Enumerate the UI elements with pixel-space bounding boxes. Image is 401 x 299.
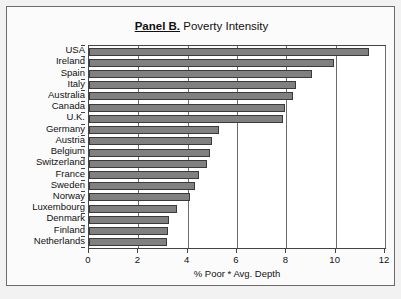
- y-axis-tick: [81, 168, 85, 169]
- y-axis-tick: [81, 146, 85, 147]
- bar: [89, 171, 199, 179]
- bar: [89, 227, 168, 235]
- bar: [89, 59, 334, 67]
- y-axis-tick: [81, 124, 85, 125]
- bar-row: [89, 147, 385, 158]
- y-axis-tick-label: France: [9, 169, 85, 179]
- x-axis-tick: [236, 249, 237, 253]
- bar: [89, 126, 219, 134]
- y-axis: USAIrelandSpainItalyAustraliaCanadaU.K.G…: [7, 45, 85, 249]
- bar: [89, 238, 167, 246]
- y-axis-tick-label: Finland: [9, 225, 85, 235]
- x-axis-tick: [187, 249, 188, 253]
- x-axis-tick-label: 12: [379, 254, 390, 265]
- y-axis-tick-label: Germany: [9, 124, 85, 134]
- bar: [89, 48, 369, 56]
- y-axis-tick-label: Norway: [9, 191, 85, 201]
- bar: [89, 104, 285, 112]
- bar-row: [89, 181, 385, 192]
- y-axis-tick: [81, 90, 85, 91]
- y-axis-tick: [81, 79, 85, 80]
- bar: [89, 193, 190, 201]
- y-axis-tick: [81, 213, 85, 214]
- bar-row: [89, 80, 385, 91]
- x-axis-tick-label: 8: [283, 254, 288, 265]
- x-axis-tick-label: 6: [233, 254, 238, 265]
- bar-row: [89, 113, 385, 124]
- y-axis-tick-label: Belgium: [9, 146, 85, 156]
- y-axis-tick-label: Sweden: [9, 180, 85, 190]
- chart-figure: Panel B. Poverty Intensity USAIrelandSpa…: [0, 0, 401, 299]
- y-axis-tick-label: Ireland: [9, 56, 85, 66]
- x-axis-tick-label: 0: [85, 254, 90, 265]
- bar-row: [89, 125, 385, 136]
- y-axis-tick: [81, 101, 85, 102]
- bar-row: [89, 46, 385, 57]
- bar-row: [89, 214, 385, 225]
- y-axis-tick: [81, 191, 85, 192]
- y-axis-tick-label: Canada: [9, 101, 85, 111]
- y-axis-tick-label: Spain: [9, 68, 85, 78]
- bar-row: [89, 102, 385, 113]
- bar-row: [89, 136, 385, 147]
- y-axis-tick-label: Switzerland: [9, 157, 85, 167]
- y-axis-tick: [81, 247, 85, 248]
- title-text: Poverty Intensity: [183, 20, 268, 32]
- x-axis-tick: [88, 249, 89, 253]
- x-axis-tick: [137, 249, 138, 253]
- bar-row: [89, 68, 385, 79]
- bar-row: [89, 57, 385, 68]
- y-axis-tick-label: USA: [9, 45, 85, 55]
- bar: [89, 137, 212, 145]
- x-axis: % Poor * Avg. Depth 024681012: [88, 249, 386, 289]
- y-axis-tick: [81, 157, 85, 158]
- y-axis-tick: [81, 45, 85, 46]
- y-axis-tick-label: Denmark: [9, 213, 85, 223]
- bar-row: [89, 91, 385, 102]
- bar: [89, 182, 195, 190]
- bar-row: [89, 158, 385, 169]
- chart-title: Panel B. Poverty Intensity: [7, 20, 396, 32]
- y-axis-tick: [81, 67, 85, 68]
- y-axis-tick: [81, 236, 85, 237]
- bar: [89, 160, 207, 168]
- bar: [89, 115, 283, 123]
- y-axis-tick-label: Luxembourg: [9, 202, 85, 212]
- plot-area: [88, 45, 386, 249]
- gridline: [385, 46, 386, 248]
- bar: [89, 70, 312, 78]
- x-axis-tick-label: 10: [329, 254, 340, 265]
- bar-row: [89, 203, 385, 214]
- y-axis-tick: [81, 56, 85, 57]
- bar-row: [89, 237, 385, 248]
- bar-row: [89, 169, 385, 180]
- x-axis-tick: [384, 249, 385, 253]
- bar: [89, 216, 169, 224]
- bar-row: [89, 192, 385, 203]
- y-axis-tick: [81, 202, 85, 203]
- panel-label: Panel B.: [135, 20, 180, 32]
- y-axis-tick-label: Australia: [9, 90, 85, 100]
- y-axis-tick: [81, 112, 85, 113]
- bar: [89, 81, 296, 89]
- x-axis-tick: [335, 249, 336, 253]
- y-axis-tick: [81, 135, 85, 136]
- y-axis-tick: [81, 180, 85, 181]
- bar-row: [89, 226, 385, 237]
- bar: [89, 149, 210, 157]
- y-axis-tick-label: U.K.: [9, 112, 85, 122]
- y-axis-tick: [81, 225, 85, 226]
- x-axis-tick: [285, 249, 286, 253]
- bar: [89, 92, 293, 100]
- figure-frame: Panel B. Poverty Intensity USAIrelandSpa…: [6, 6, 395, 286]
- bar: [89, 205, 177, 213]
- x-axis-tick-label: 2: [135, 254, 140, 265]
- y-axis-tick-label: Austria: [9, 135, 85, 145]
- x-axis-label: % Poor * Avg. Depth: [88, 268, 386, 279]
- bar-series: [89, 46, 385, 248]
- x-axis-tick-label: 4: [184, 254, 189, 265]
- y-axis-tick-label: Italy: [9, 79, 85, 89]
- y-axis-tick-label: Netherlands: [9, 236, 85, 246]
